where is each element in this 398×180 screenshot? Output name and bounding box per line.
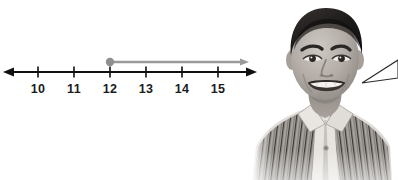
speech-bubble-tail-shape bbox=[362, 60, 398, 83]
worksheet-canvas: 10 11 12 13 14 15 bbox=[0, 0, 398, 180]
tick-label-10: 10 bbox=[25, 82, 51, 96]
solution-ray bbox=[106, 58, 249, 66]
tick-label-13: 13 bbox=[133, 82, 159, 96]
ray-closed-endpoint-dot bbox=[106, 58, 114, 66]
tick-label-14: 14 bbox=[169, 82, 195, 96]
tick-label-15: 15 bbox=[205, 82, 231, 96]
axis-left-arrowhead bbox=[3, 68, 14, 77]
tick-label-12: 12 bbox=[97, 82, 123, 96]
number-line: 10 11 12 13 14 15 bbox=[0, 0, 262, 180]
tick-label-11: 11 bbox=[61, 82, 87, 96]
axis-line bbox=[3, 68, 257, 77]
speech-bubble-tail bbox=[340, 48, 398, 98]
photo-left-fade bbox=[250, 96, 272, 180]
photo-bottom-fade bbox=[250, 150, 398, 180]
ray-arrowhead bbox=[240, 59, 249, 66]
